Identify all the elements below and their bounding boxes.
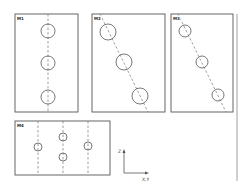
panel-frame xyxy=(92,14,165,112)
circle-marker xyxy=(179,25,191,37)
panel-m1: M1 xyxy=(15,14,78,112)
circle-marker xyxy=(41,24,55,38)
z-axis-label: Z xyxy=(118,149,121,154)
diagram-canvas: M1M2M3M4 Z X,Y xyxy=(0,0,249,187)
panel-label: M2 xyxy=(94,16,101,21)
dashed-axis-line xyxy=(100,14,148,112)
panel-m3: M3 xyxy=(171,14,233,112)
panel-frame xyxy=(15,14,78,112)
panel-label: M1 xyxy=(17,16,24,21)
panel-label: M4 xyxy=(17,123,24,128)
circle-marker xyxy=(100,24,116,40)
xy-axis-label: X,Y xyxy=(142,177,150,182)
circle-marker xyxy=(116,54,132,70)
axes-indicator: Z X,Y xyxy=(118,149,150,182)
panel-label: M3 xyxy=(173,16,180,21)
circle-marker xyxy=(196,56,208,68)
panel-frame xyxy=(15,121,110,175)
dashed-axis-line xyxy=(178,14,226,112)
panel-m4: M4 xyxy=(15,121,110,175)
xy-arrow-icon xyxy=(145,172,149,175)
panel-m2: M2 xyxy=(92,14,165,112)
z-arrow-icon xyxy=(123,149,126,153)
circle-marker xyxy=(41,56,55,70)
